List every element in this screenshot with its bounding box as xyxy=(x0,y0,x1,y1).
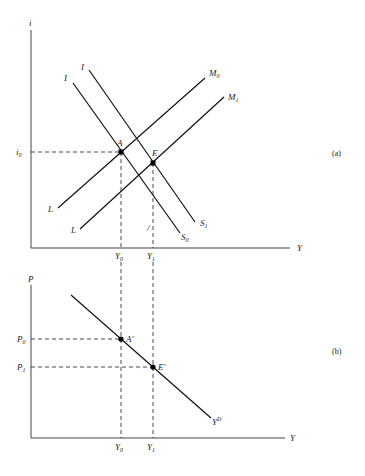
panel-b-tag: (b) xyxy=(332,347,342,356)
point-a-prime-label: A′ xyxy=(125,334,134,344)
point-a xyxy=(119,150,124,155)
lm-m1-start-label: L xyxy=(70,225,76,235)
y-axis-label-a: Y xyxy=(297,243,303,253)
aggregate-demand-curve xyxy=(71,295,211,418)
is-s1-start-label: I xyxy=(80,62,85,72)
lm-m0-start-label: L xyxy=(47,204,53,214)
panel-a-tag: (a) xyxy=(332,149,341,158)
lm-m0-end-label: M0 xyxy=(208,68,220,79)
y0-label-b: Y0 xyxy=(115,442,123,453)
panel-a: i Y I I S0 S1 L L M0 M1 A E / i0 Y0 Y1 (… xyxy=(16,18,341,262)
is-s0-end-label: S0 xyxy=(181,232,189,243)
i0-label: i0 xyxy=(16,147,22,158)
is-s1-end-label: S1 xyxy=(200,218,208,229)
p0-label: P0 xyxy=(16,334,26,345)
y1-label-a: Y1 xyxy=(147,251,155,262)
lm-curve-m0 xyxy=(58,78,205,208)
y1-label-b: Y1 xyxy=(147,442,155,453)
is-curve-s1 xyxy=(89,70,195,222)
p-axis-label: P xyxy=(27,274,34,284)
point-e xyxy=(151,161,156,166)
point-a-label: A xyxy=(116,138,123,148)
point-e-label: E xyxy=(151,148,158,158)
yd-label: YD xyxy=(212,416,222,427)
p1-label: P1 xyxy=(16,362,26,373)
point-a-prime xyxy=(118,336,123,341)
slash-mark: / xyxy=(146,223,151,233)
y0-label-a: Y0 xyxy=(115,251,123,262)
point-e-prime-label: E′ xyxy=(157,362,166,372)
i-axis-label: i xyxy=(29,18,32,28)
point-e-prime xyxy=(150,364,155,369)
panel-b: P Y YD A′ E′ P0 P1 Y0 Y1 (b) xyxy=(16,274,342,453)
is-curve-s0 xyxy=(73,83,180,233)
lm-m1-end-label: M1 xyxy=(227,92,239,103)
is-s0-start-label: I xyxy=(63,73,68,83)
y-axis-label-b: Y xyxy=(290,433,296,443)
is-lm-ad-diagram: i Y I I S0 S1 L L M0 M1 A E / i0 Y0 Y1 (… xyxy=(0,0,365,476)
